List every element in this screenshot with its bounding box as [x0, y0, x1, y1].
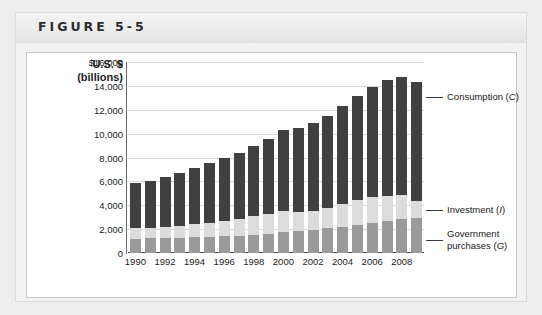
bar-segment [337, 106, 348, 204]
bar-segment [234, 236, 245, 253]
y-axis-tick-label: 10,000 [94, 128, 123, 139]
x-axis-tick-label: 2004 [332, 256, 353, 267]
bar-segment [189, 237, 200, 253]
bar-segment [308, 230, 319, 253]
x-axis-line [128, 252, 424, 253]
bar-segment [248, 146, 259, 216]
bar-segment [322, 228, 333, 253]
bar-segment [145, 228, 156, 238]
y-axis-tick-label: 6,000 [99, 176, 123, 187]
bar-segment [293, 128, 304, 212]
bar-segment [204, 237, 215, 253]
bar-segment [130, 183, 141, 228]
bar-segment [352, 225, 363, 253]
bar-segment [145, 238, 156, 253]
y-axis-tick-label: 2,000 [99, 224, 123, 235]
bar-1994 [189, 168, 200, 253]
bar-segment [293, 212, 304, 231]
bar-segment [174, 226, 185, 237]
bar-segment [278, 211, 289, 232]
y-axis-tick-label: $16,000 [89, 57, 123, 68]
x-axis-tick-label: 2008 [391, 256, 412, 267]
gridline [128, 229, 424, 230]
bar-segment [337, 204, 348, 226]
bar-segment [130, 228, 141, 239]
bar-segment [382, 221, 393, 253]
figure-number-label: FIGURE 5-5 [38, 19, 147, 34]
bar-2002 [308, 123, 319, 253]
bar-segment [411, 218, 422, 253]
x-axis-tick-label: 2002 [302, 256, 323, 267]
gridline [128, 181, 424, 182]
y-axis-tick-label: 8,000 [99, 152, 123, 163]
bar-segment [396, 195, 407, 218]
bar-segment [308, 123, 319, 211]
bar-1999 [263, 139, 274, 253]
bar-segment [204, 163, 215, 222]
bar-segment [367, 87, 378, 197]
bar-2005 [352, 96, 363, 253]
bar-2000 [278, 130, 289, 253]
x-axis-tick-label: 1996 [214, 256, 235, 267]
bar-2007 [382, 80, 393, 253]
x-axis-tick-label: 1990 [125, 256, 146, 267]
bar-1995 [204, 163, 215, 253]
bar-2009 [411, 82, 422, 253]
bar-segment [278, 232, 289, 253]
bar-segment [234, 153, 245, 219]
bar-segment [219, 236, 230, 253]
bar-2006 [367, 87, 378, 253]
bar-2003 [322, 116, 333, 253]
bar-segment [160, 227, 171, 238]
legend-investment-label: Investment (I) [447, 204, 505, 216]
bar-1991 [145, 181, 156, 253]
bar-segment [293, 231, 304, 253]
bar-1992 [160, 177, 171, 253]
x-axis-tick-label: 1998 [243, 256, 264, 267]
bar-segment [160, 177, 171, 227]
bar-segment [396, 219, 407, 253]
bar-segment [382, 196, 393, 221]
y-axis-line [126, 62, 127, 254]
gridline [128, 86, 424, 87]
y-axis-tick-label: 0 [118, 248, 123, 259]
gridline [128, 205, 424, 206]
bar-segment [189, 224, 200, 237]
bar-segment [411, 82, 422, 201]
plot-area [128, 62, 424, 253]
x-axis-tick-label: 2006 [362, 256, 383, 267]
gridline [128, 158, 424, 159]
bar-segment [160, 238, 171, 253]
bar-segment [248, 216, 259, 234]
legend-consumption-label: Consumption (C) [447, 91, 519, 103]
x-axis-tick-label: 1992 [154, 256, 175, 267]
x-axis-ticks: 1990199219941996199820002002200420062008 [128, 0, 424, 1]
consumption-leader-line [426, 97, 443, 98]
bar-2004 [337, 106, 348, 253]
bar-segment [352, 96, 363, 200]
bar-segment [352, 200, 363, 225]
bar-segment [263, 234, 274, 253]
bar-1998 [248, 146, 259, 253]
gridline [128, 134, 424, 135]
government-leader-line [426, 240, 443, 241]
legend-government-label: Governmentpurchases (G) [447, 228, 507, 251]
y-axis-tick-label: 14,000 [94, 80, 123, 91]
bar-segment [174, 173, 185, 226]
bar-segment [219, 221, 230, 236]
bar-segment [263, 139, 274, 214]
bar-1996 [219, 158, 230, 253]
gridline [128, 62, 424, 63]
bar-2008 [396, 77, 407, 253]
y-axis-tick-label: 4,000 [99, 200, 123, 211]
bar-segment [174, 238, 185, 253]
figure-container: FIGURE 5-5 U.S. $ (billions) $16,00014,0… [0, 0, 542, 315]
x-axis-tick-label: 1994 [184, 256, 205, 267]
bar-1997 [234, 153, 245, 253]
bar-segment [189, 168, 200, 225]
bar-segment [204, 223, 215, 237]
bar-segment [396, 77, 407, 195]
bar-segment [145, 181, 156, 229]
bar-segment [411, 201, 422, 218]
bar-segment [337, 227, 348, 253]
